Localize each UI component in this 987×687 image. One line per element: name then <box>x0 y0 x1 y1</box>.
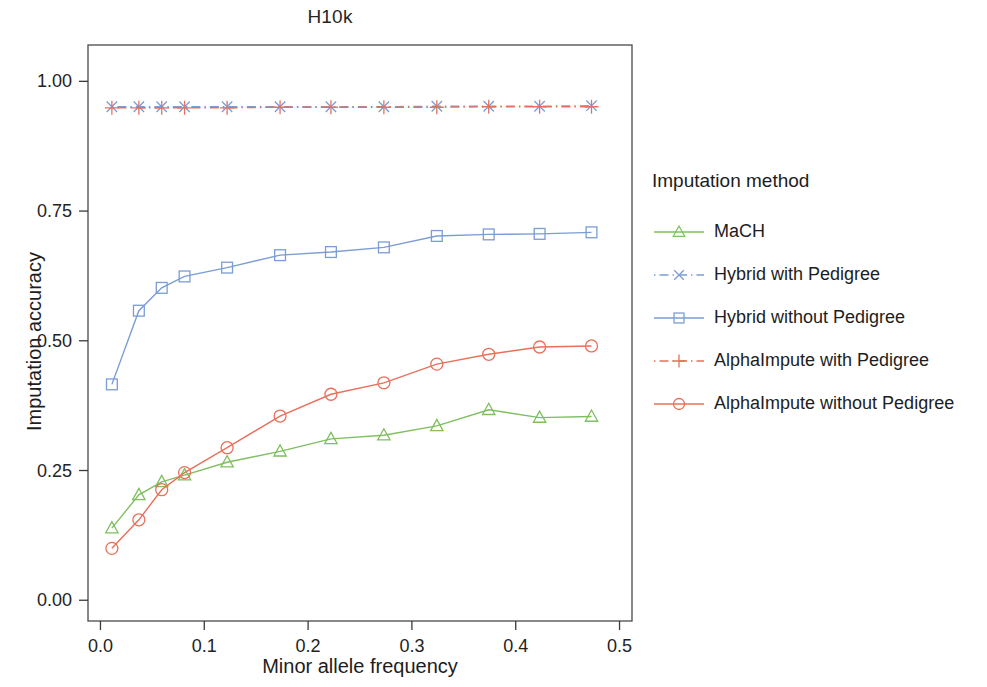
legend-label-hybrid-without-pedigree: Hybrid without Pedigree <box>714 307 905 328</box>
legend-key-mach <box>652 219 706 245</box>
series-hybrid-with-pedigree <box>107 101 597 112</box>
legend-label-hybrid-with-pedigree: Hybrid with Pedigree <box>714 264 880 285</box>
data-point-triangle <box>483 403 495 414</box>
legend-key-hybrid-without-pedigree <box>652 305 706 331</box>
series-hybrid-without-pedigree <box>106 227 596 390</box>
legend: Imputation method MaCH Hybrid with Pedig… <box>652 170 987 425</box>
legend-label-mach: MaCH <box>714 221 765 242</box>
legend-item-alphaimpute-with-pedigree[interactable]: AlphaImpute with Pedigree <box>652 339 987 382</box>
data-point-plus <box>178 101 192 115</box>
x-tick-label: 0.2 <box>296 636 321 656</box>
plot-frame <box>88 45 632 621</box>
legend-item-mach[interactable]: MaCH <box>652 210 987 253</box>
series-alphaimpute-without-pedigree <box>106 340 598 554</box>
legend-key-hybrid-with-pedigree <box>652 262 706 288</box>
legend-label-alphaimpute-without-pedigree: AlphaImpute without Pedigree <box>714 393 954 414</box>
legend-item-hybrid-without-pedigree[interactable]: Hybrid without Pedigree <box>652 296 987 339</box>
data-point-plus <box>430 100 444 114</box>
data-point-plus <box>220 101 234 115</box>
data-point-triangle <box>133 488 145 499</box>
x-tick-label: 0.0 <box>88 636 113 656</box>
legend-title: Imputation method <box>652 170 987 192</box>
legend-key-alphaimpute-without-pedigree <box>652 391 706 417</box>
axis-layer: 0.00.10.20.30.40.50.000.250.500.751.00 <box>37 45 632 656</box>
data-point-plus <box>155 101 169 115</box>
y-tick-label: 0.75 <box>37 201 72 221</box>
legend-label-alphaimpute-with-pedigree: AlphaImpute with Pedigree <box>714 350 929 371</box>
series-line <box>112 232 592 384</box>
y-tick-label: 0.50 <box>37 331 72 351</box>
y-tick-label: 0.25 <box>37 461 72 481</box>
data-point-triangle <box>673 226 684 236</box>
series-layer <box>105 100 599 555</box>
x-tick-label: 0.1 <box>192 636 217 656</box>
legend-item-alphaimpute-without-pedigree[interactable]: AlphaImpute without Pedigree <box>652 382 987 425</box>
data-point-plus <box>105 101 119 115</box>
series-line <box>112 346 592 548</box>
y-tick-label: 0.00 <box>37 590 72 610</box>
chart-figure: H10k Imputation accuracy Minor allele fr… <box>0 0 987 687</box>
data-point-plus <box>673 354 686 367</box>
data-point-plus <box>132 101 146 115</box>
series-mach <box>106 403 598 532</box>
x-tick-label: 0.3 <box>399 636 424 656</box>
legend-item-hybrid-with-pedigree[interactable]: Hybrid with Pedigree <box>652 253 987 296</box>
data-point-triangle <box>585 410 597 421</box>
legend-key-alphaimpute-with-pedigree <box>652 348 706 374</box>
y-tick-label: 1.00 <box>37 71 72 91</box>
data-point-plus <box>585 100 599 114</box>
x-tick-label: 0.4 <box>503 636 528 656</box>
x-tick-label: 0.5 <box>607 636 632 656</box>
